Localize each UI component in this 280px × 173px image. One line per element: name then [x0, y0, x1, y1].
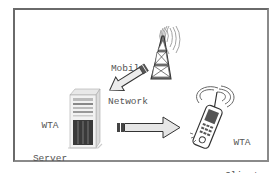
- diagram-graphics: [0, 0, 280, 173]
- arrow-network-to-server: [106, 61, 151, 97]
- server-tower-icon: [68, 89, 102, 148]
- mobile-phone-icon: [190, 86, 234, 149]
- radio-tower-icon: [151, 26, 180, 79]
- arrow-server-to-client: [117, 117, 180, 138]
